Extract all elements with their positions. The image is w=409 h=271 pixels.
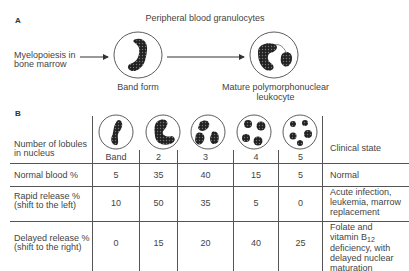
cell: 5 [93, 170, 139, 181]
mature-nucleus-lobe-2 [281, 52, 292, 67]
col-3: 3 [178, 152, 233, 163]
cell: 15 [234, 170, 278, 181]
cell: 35 [178, 198, 233, 209]
clinical-rapid-3: replacement [330, 207, 380, 218]
cell: 5 [234, 198, 278, 209]
mature-nucleus-lobe-1 [258, 43, 277, 70]
row-rapid-label-2: (shift to the left) [14, 200, 76, 211]
cell: 35 [140, 170, 177, 181]
cell: 15 [140, 238, 177, 249]
cell: 25 [279, 238, 322, 249]
mature-label-2: leukocyte [218, 92, 333, 103]
row-delayed-label-2: (shift to the right) [14, 242, 82, 253]
col-5: 5 [279, 152, 322, 163]
col-4: 4 [234, 152, 278, 163]
cell: 40 [234, 238, 278, 249]
band-form-label: Band form [110, 82, 166, 93]
clinical-delayed-5: maturation [330, 263, 373, 271]
panel-a-diagram [0, 0, 409, 110]
clinical-normal: Normal [330, 170, 359, 181]
cell: 0 [93, 238, 139, 249]
band-nucleus [128, 39, 147, 71]
col-2: 2 [140, 152, 177, 163]
cell: 5 [279, 170, 322, 181]
row-normal-label: Normal blood % [14, 170, 78, 181]
cell: 40 [178, 170, 233, 181]
lobule-cells [0, 112, 409, 172]
col-band: Band [93, 152, 139, 163]
cell: 50 [140, 198, 177, 209]
cell: 20 [178, 238, 233, 249]
cell: 0 [279, 198, 322, 209]
cell: 10 [93, 198, 139, 209]
